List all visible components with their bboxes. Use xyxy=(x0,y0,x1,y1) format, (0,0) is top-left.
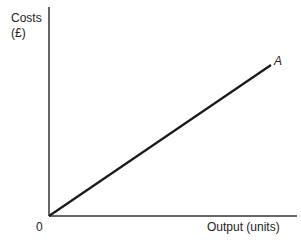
cost-diagram: Costs (£) 0 Output (units) A xyxy=(0,0,301,242)
diagram-plot xyxy=(0,0,301,242)
y-axis-unit: (£) xyxy=(11,26,26,41)
x-axis-label: Output (units) xyxy=(207,220,280,235)
line-label-a: A xyxy=(274,54,282,69)
origin-label: 0 xyxy=(36,220,43,235)
y-axis-label: Costs xyxy=(11,11,42,26)
cost-line-a xyxy=(49,65,271,216)
